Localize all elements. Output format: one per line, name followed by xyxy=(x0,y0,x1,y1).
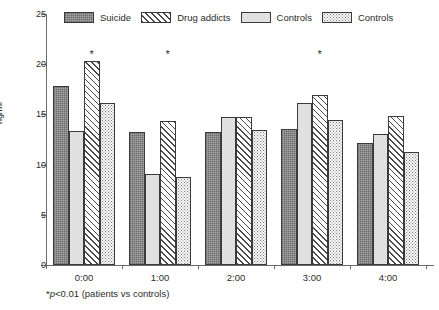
y-tick-10: 10 xyxy=(0,165,46,166)
x-axis-label-2-00: 2:00 xyxy=(227,272,246,283)
chart-figure: Suicide Drug addicts Controls Controls n… xyxy=(0,0,439,310)
y-axis-title: ng/ml xyxy=(0,102,4,124)
x-axis-label-3-00: 3:00 xyxy=(303,272,322,283)
y-tick-25: 25 xyxy=(0,14,46,15)
bar-controls-4-00 xyxy=(373,134,389,265)
x-tick-mark xyxy=(198,265,199,269)
x-axis-label-1-00: 1:00 xyxy=(151,272,170,283)
y-tick-20: 20 xyxy=(0,64,46,65)
chart-footnote: *p<0.01 (patients vs controls) xyxy=(46,288,169,299)
y-tick-label: 10 xyxy=(10,161,46,170)
y-tick-0: 0 xyxy=(0,265,46,266)
significance-asterisk-1-00: * xyxy=(166,49,170,60)
x-axis-line xyxy=(46,265,434,266)
y-tick-label: 25 xyxy=(10,10,46,19)
bar-drug-addicts-4-00 xyxy=(388,116,404,265)
x-tick-mark xyxy=(350,265,351,269)
significance-asterisk-0-00: * xyxy=(90,49,94,60)
bar-controls-4-00 xyxy=(404,152,420,265)
footnote-rest: <0.01 (patients vs controls) xyxy=(55,288,169,299)
y-tick-15: 15 xyxy=(0,114,46,115)
y-tick-label: 5 xyxy=(10,211,46,220)
y-tick-label: 15 xyxy=(10,110,46,119)
significance-asterisk-3-00: * xyxy=(318,49,322,60)
y-tick-label: 0 xyxy=(10,261,46,270)
plot-area xyxy=(46,14,426,265)
x-tick-mark xyxy=(122,265,123,269)
x-axis-label-0-00: 0:00 xyxy=(75,272,94,283)
bar-group-4-00 xyxy=(46,14,426,265)
x-tick-mark xyxy=(274,265,275,269)
x-axis-label-4-00: 4:00 xyxy=(379,272,398,283)
x-tick-mark xyxy=(46,265,47,269)
x-tick-mark xyxy=(426,265,427,269)
y-tick-5: 5 xyxy=(0,215,46,216)
bar-suicide-4-00 xyxy=(357,143,373,265)
y-tick-label: 20 xyxy=(10,60,46,69)
